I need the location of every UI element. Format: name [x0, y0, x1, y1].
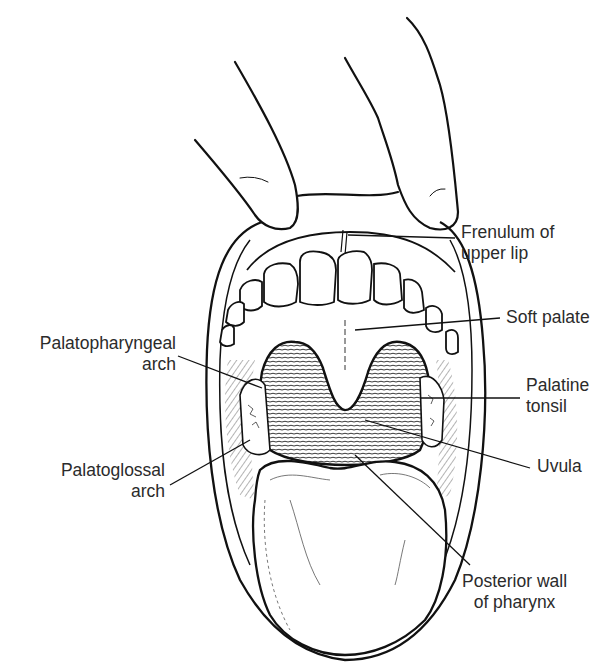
label-line: Palatopharyngeal: [16, 333, 176, 354]
label-soft-palate: Soft palate: [506, 307, 590, 328]
label-line: Posterior wall: [462, 571, 567, 592]
label-line: tonsil: [526, 396, 589, 417]
fingers: [195, 18, 458, 229]
label-line: Palatoglossal: [40, 460, 165, 481]
label-palatine-tonsil: Palatine tonsil: [526, 375, 589, 417]
label-line: Soft palate: [506, 307, 590, 328]
label-palatopharyngeal-arch: Palatopharyngeal arch: [16, 333, 176, 375]
label-line: upper lip: [461, 243, 554, 264]
label-line: arch: [40, 481, 165, 502]
label-frenulum-of-upper-lip: Frenulum of upper lip: [461, 222, 554, 264]
label-line: Uvula: [537, 456, 582, 477]
label-line: Palatine: [526, 375, 589, 396]
tongue: [253, 461, 446, 655]
upper-teeth: [220, 251, 458, 354]
label-line: of pharynx: [462, 592, 567, 613]
label-palatoglossal-arch: Palatoglossal arch: [40, 460, 165, 502]
frenulum-mark: [341, 230, 347, 255]
label-uvula: Uvula: [537, 456, 582, 477]
label-posterior-wall-of-pharynx: Posterior wall of pharynx: [462, 571, 567, 613]
label-line: arch: [16, 354, 176, 375]
label-line: Frenulum of: [461, 222, 554, 243]
